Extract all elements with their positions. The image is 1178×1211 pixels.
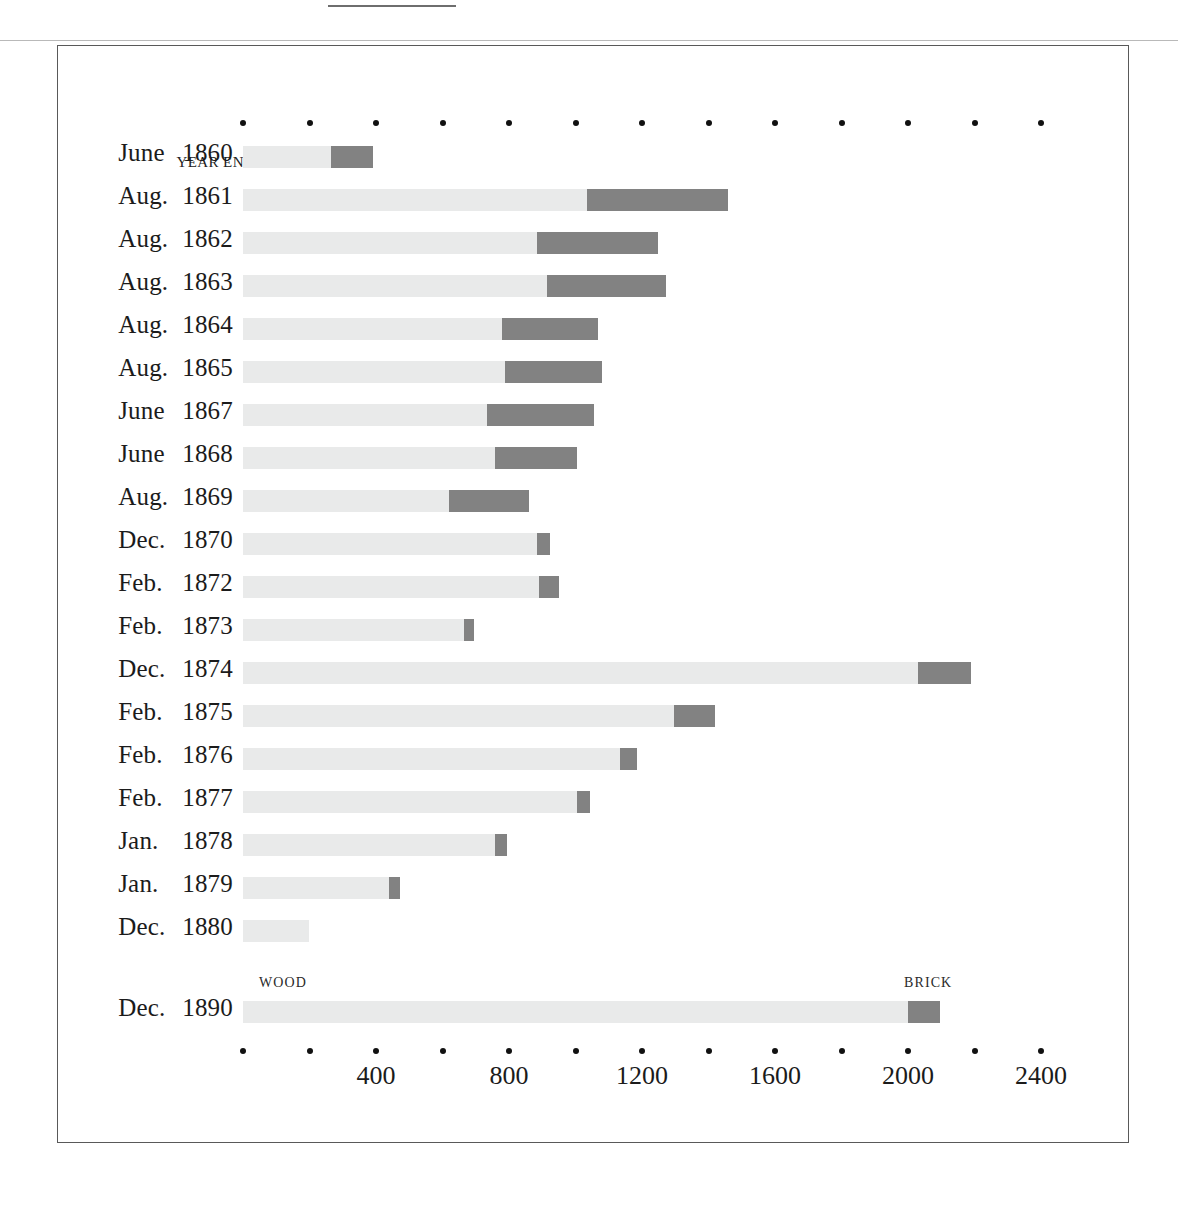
row-label: Feb.1873 <box>13 612 233 640</box>
bar-segment-wood <box>243 318 502 340</box>
tick-dot <box>440 1048 446 1054</box>
tick-dot <box>706 1048 712 1054</box>
row-label: Aug.1865 <box>13 354 233 382</box>
stacked-bar <box>243 318 598 340</box>
bar-segment-wood <box>243 834 495 856</box>
row-label-month: June <box>118 139 182 167</box>
row-label-month: Aug. <box>118 354 182 382</box>
row-label-year: 1877 <box>182 784 233 811</box>
tick-dot <box>839 1048 845 1054</box>
row-label-year: 1876 <box>182 741 233 768</box>
row-label-month: Jan. <box>118 827 182 855</box>
tick-dot <box>307 1048 313 1054</box>
bar-segment-brick <box>539 576 559 598</box>
x-tick-label: 2400 <box>1015 1061 1067 1091</box>
row-label: Feb.1876 <box>13 741 233 769</box>
row-label: Aug.1861 <box>13 182 233 210</box>
stacked-bar <box>243 275 666 297</box>
tick-dot <box>839 120 845 126</box>
chart-row: Aug.1863 <box>58 267 1130 301</box>
row-label-year: 1860 <box>182 139 233 166</box>
row-label: Dec.1870 <box>13 526 233 554</box>
plot-area: YEAR ENDING June1860Aug.1861Aug.1862Aug.… <box>58 46 1130 1144</box>
chart-row: Aug.1869 <box>58 482 1130 516</box>
bar-segment-wood <box>243 490 449 512</box>
bar-segment-brick <box>449 490 528 512</box>
bar-segment-brick <box>908 1001 940 1023</box>
stacked-bar <box>243 361 602 383</box>
chart-row: Dec.1874 <box>58 654 1130 688</box>
bar-segment-wood <box>243 447 495 469</box>
tick-dot <box>373 1048 379 1054</box>
row-label: June1867 <box>13 397 233 425</box>
row-label: Jan.1878 <box>13 827 233 855</box>
row-label-month: Aug. <box>118 182 182 210</box>
tick-dot <box>905 1048 911 1054</box>
bar-segment-brick <box>537 533 550 555</box>
bar-segment-wood <box>243 877 389 899</box>
bar-segment-wood <box>243 576 539 598</box>
bar-segment-brick <box>495 834 507 856</box>
bar-segment-brick <box>502 318 597 340</box>
stacked-bar <box>243 619 474 641</box>
row-label: Feb.1877 <box>13 784 233 812</box>
stacked-bar <box>243 1001 940 1023</box>
stacked-bar <box>243 705 715 727</box>
chart-row: Aug.1861 <box>58 181 1130 215</box>
bar-segment-brick <box>495 447 577 469</box>
chart-row: Feb.1872 <box>58 568 1130 602</box>
tick-dot <box>506 120 512 126</box>
chart-row: Feb.1875 <box>58 697 1130 731</box>
row-label: June1868 <box>13 440 233 468</box>
stacked-bar <box>243 834 507 856</box>
row-label: Aug.1862 <box>13 225 233 253</box>
row-label-year: 1872 <box>182 569 233 596</box>
stacked-bar <box>243 189 728 211</box>
chart-row: Aug.1862 <box>58 224 1130 258</box>
chart-row: June1867 <box>58 396 1130 430</box>
chart-row: Feb.1877 <box>58 783 1130 817</box>
tick-dot <box>240 120 246 126</box>
tick-dot <box>972 1048 978 1054</box>
row-label-month: Dec. <box>118 913 182 941</box>
row-label-year: 1890 <box>182 994 233 1021</box>
x-tick-label: 1200 <box>616 1061 668 1091</box>
tick-dot <box>240 1048 246 1054</box>
row-label: Dec.1890 <box>13 994 233 1022</box>
bar-segment-brick <box>537 232 657 254</box>
stacked-bar <box>243 662 971 684</box>
row-label-month: Aug. <box>118 311 182 339</box>
bar-segment-brick <box>620 748 637 770</box>
row-label-year: 1868 <box>182 440 233 467</box>
row-label-year: 1862 <box>182 225 233 252</box>
row-label-month: Aug. <box>118 225 182 253</box>
row-label-month: Feb. <box>118 612 182 640</box>
bar-segment-wood <box>243 705 674 727</box>
bar-segment-wood <box>243 1001 908 1023</box>
row-label-year: 1867 <box>182 397 233 424</box>
row-label-month: Dec. <box>118 994 182 1022</box>
chart-row: Jan.1878 <box>58 826 1130 860</box>
bar-segment-wood <box>243 619 464 641</box>
tick-dot <box>1038 1048 1044 1054</box>
chart-row: Feb.1873 <box>58 611 1130 645</box>
bar-segment-wood <box>243 146 331 168</box>
row-label-year: 1873 <box>182 612 233 639</box>
tick-dot <box>573 120 579 126</box>
stacked-bar <box>243 533 550 555</box>
bar-segment-wood <box>243 404 487 426</box>
bottom-tick-dot-row <box>58 1048 1130 1058</box>
row-label-month: Feb. <box>118 569 182 597</box>
tick-dot <box>972 120 978 126</box>
top-rule-long <box>0 40 1178 41</box>
bar-segment-brick <box>331 146 373 168</box>
bar-segment-brick <box>464 619 474 641</box>
tick-dot <box>639 1048 645 1054</box>
stacked-bar <box>243 404 594 426</box>
row-label-month: June <box>118 440 182 468</box>
row-label: Aug.1869 <box>13 483 233 511</box>
row-label-month: Jan. <box>118 870 182 898</box>
row-label-year: 1870 <box>182 526 233 553</box>
bar-segment-brick <box>487 404 594 426</box>
row-label-year: 1878 <box>182 827 233 854</box>
